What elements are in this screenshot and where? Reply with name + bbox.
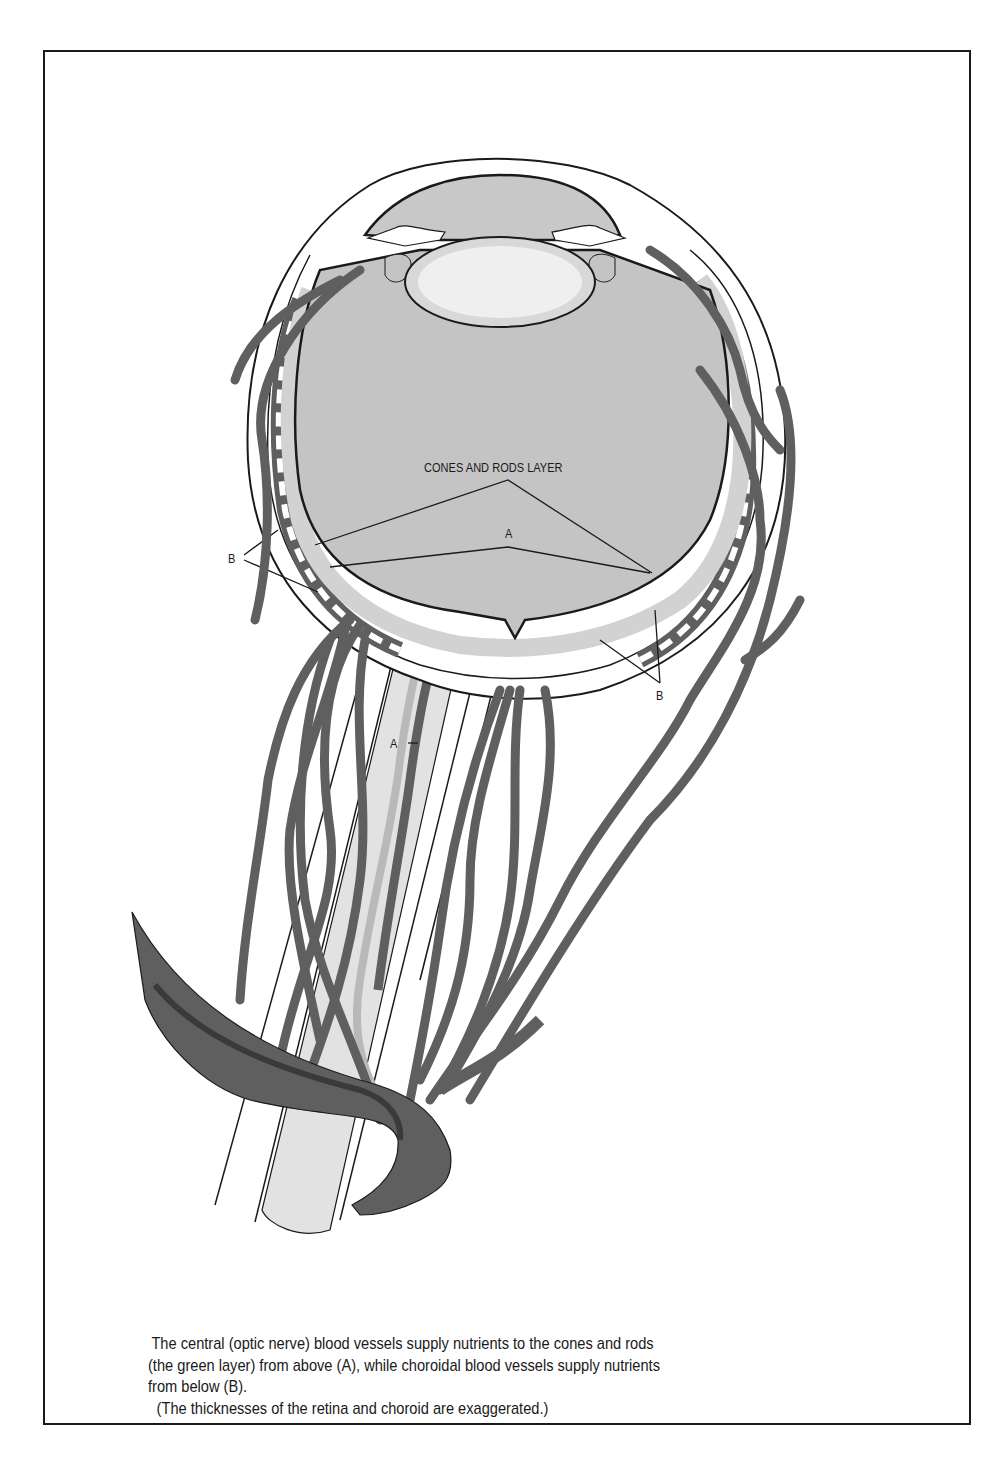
eyeball — [247, 159, 785, 699]
eye-blood-supply-diagram — [0, 0, 988, 1470]
caption-line-1: The central (optic nerve) blood vessels … — [148, 1333, 870, 1355]
label-b-left: B — [228, 551, 235, 566]
label-a-nerve: A — [390, 736, 397, 751]
label-a-retina: A — [505, 526, 512, 541]
caption-line-2: (the green layer) from above (A), while … — [148, 1355, 870, 1377]
figure-caption: The central (optic nerve) blood vessels … — [148, 1333, 870, 1419]
caption-line-4: (The thicknesses of the retina and choro… — [148, 1398, 870, 1420]
label-b-right: B — [656, 688, 663, 703]
caption-line-3: from below (B). — [148, 1376, 870, 1398]
label-cones-rods-layer: CONES AND RODS LAYER — [424, 460, 563, 475]
